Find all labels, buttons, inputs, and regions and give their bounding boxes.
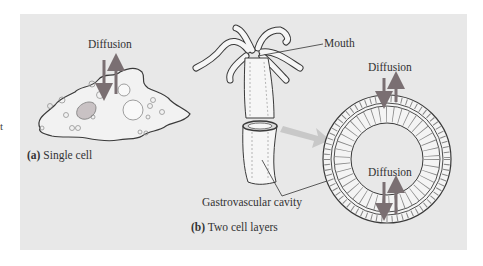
diffusion-label-single-cell: Diffusion: [88, 38, 132, 50]
magnify-pointer-arrow: [280, 126, 330, 148]
amoeba-cell-illustration: [39, 68, 190, 141]
diffusion-label-outer: Diffusion: [368, 61, 412, 73]
caption-two-cell-layers: (b) Two cell layers: [191, 221, 278, 233]
diffusion-label-inner: Diffusion: [368, 166, 412, 178]
caption-single-cell: (a) Single cell: [27, 149, 92, 161]
gastrovascular-cavity-label: Gastrovascular cavity: [202, 196, 302, 208]
caption-letter-a: (a): [27, 149, 40, 161]
caption-text-b: Two cell layers: [208, 221, 278, 233]
caption-text-a: Single cell: [43, 149, 92, 161]
mouth-label: Mouth: [324, 37, 355, 49]
cross-section-two-cell-layers: [323, 95, 451, 223]
caption-letter-b: (b): [191, 221, 205, 233]
